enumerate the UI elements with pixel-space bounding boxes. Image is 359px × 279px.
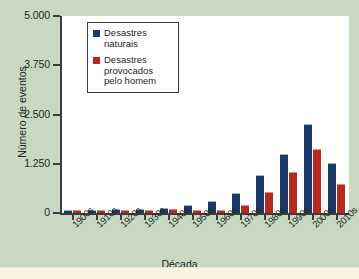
- y-axis-tick-label: 0: [44, 206, 50, 218]
- bar-manmade: [265, 192, 273, 213]
- bar-manmade: [289, 172, 297, 213]
- bar-natural: [64, 210, 72, 213]
- legend-swatch-icon: [93, 57, 100, 64]
- legend-item: Desastres provocados pelo homem: [93, 55, 173, 87]
- bar-natural: [304, 124, 312, 213]
- chart-legend: Desastres naturaisDesastres provocados p…: [87, 22, 179, 93]
- y-axis-line: [60, 16, 62, 215]
- legend-label: Desastres provocados pelo homem: [104, 55, 173, 87]
- y-axis-tick-label: 2.500: [24, 108, 50, 120]
- bottom-strip: [0, 268, 359, 279]
- bar-natural: [280, 154, 288, 213]
- legend-label: Desastres naturais: [104, 28, 173, 49]
- y-axis-tick: [53, 163, 60, 165]
- y-axis-tick: [53, 15, 60, 17]
- y-axis-tick: [53, 64, 60, 66]
- legend-item: Desastres naturais: [93, 28, 173, 49]
- bar-manmade: [337, 184, 345, 213]
- legend-swatch-icon: [93, 30, 100, 37]
- y-axis-tick-label: 3.750: [24, 58, 50, 70]
- y-axis-tick: [53, 212, 60, 214]
- bar-manmade: [313, 149, 321, 213]
- y-axis-tick-label: 5.000: [24, 9, 50, 21]
- y-axis-tick: [53, 114, 60, 116]
- y-axis-tick-label: 1.250: [24, 157, 50, 169]
- chart-figure: Número de eventos 5.0003.7502.5001.2500 …: [0, 0, 359, 279]
